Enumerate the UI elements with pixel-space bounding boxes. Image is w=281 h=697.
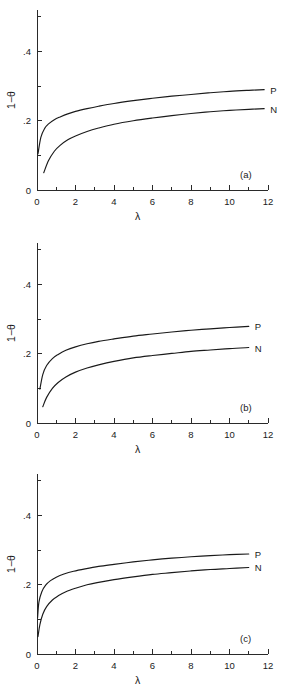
figure-container: 0246810120.2.4PN1−θλ(a)0246810120.2.4PN1…: [0, 0, 281, 697]
x-tick-label: 2: [73, 196, 78, 207]
x-tick-label: 0: [34, 660, 39, 671]
y-tick-label: 0: [26, 418, 31, 429]
y-tick-label: .2: [23, 348, 31, 359]
curve-label-p: P: [270, 85, 276, 96]
x-tick-label: 12: [263, 196, 274, 207]
curve-label-n: N: [255, 343, 262, 354]
x-tick-label: 6: [150, 196, 155, 207]
y-axis-title: 1−θ: [5, 555, 17, 573]
x-tick-label: 2: [73, 429, 78, 440]
curve-n: [38, 567, 249, 636]
x-tick-label: 12: [263, 429, 274, 440]
x-axis-title: λ: [135, 210, 141, 222]
panel-label: (c): [240, 633, 251, 644]
x-tick-label: 10: [224, 660, 235, 671]
x-tick-label: 4: [111, 660, 116, 671]
x-tick-label: 6: [150, 429, 155, 440]
y-axis-title: 1−θ: [5, 91, 17, 109]
curve-n: [44, 109, 264, 173]
x-axis-title: λ: [135, 674, 141, 686]
y-tick-label: .4: [23, 46, 31, 57]
plot-panel-b: 0246810120.2.4PN1−θλ(b): [0, 233, 281, 465]
panel-label: (b): [240, 402, 252, 413]
plot-svg: 0246810120.2.4PN1−θλ(a): [0, 0, 281, 232]
x-tick-label: 4: [111, 429, 116, 440]
y-axis-title: 1−θ: [5, 324, 17, 342]
x-tick-label: 0: [34, 429, 39, 440]
x-tick-label: 8: [188, 196, 193, 207]
y-tick-label: .2: [23, 115, 31, 126]
plot-panel-a: 0246810120.2.4PN1−θλ(a): [0, 0, 281, 232]
curve-label-p: P: [255, 549, 261, 560]
y-tick-label: 0: [26, 649, 31, 660]
plot-axes: [37, 10, 268, 190]
curve-label-p: P: [255, 321, 261, 332]
x-tick-label: 4: [111, 196, 116, 207]
plot-panel-c: 0246810120.2.4PN1−θλ(c): [0, 464, 281, 696]
plot-svg: 0246810120.2.4PN1−θλ(c): [0, 464, 281, 696]
curve-p: [40, 326, 249, 389]
curve-label-n: N: [270, 104, 277, 115]
y-tick-label: .4: [23, 510, 31, 521]
x-tick-label: 10: [224, 196, 235, 207]
x-tick-label: 8: [188, 660, 193, 671]
plot-axes: [37, 243, 268, 423]
y-tick-label: 0: [26, 185, 31, 196]
x-tick-label: 8: [188, 429, 193, 440]
y-tick-label: .2: [23, 579, 31, 590]
x-tick-label: 0: [34, 196, 39, 207]
plot-svg: 0246810120.2.4PN1−θλ(b): [0, 233, 281, 465]
x-axis-title: λ: [135, 443, 141, 455]
x-tick-label: 12: [263, 660, 274, 671]
plot-axes: [37, 474, 268, 654]
panel-label: (a): [240, 169, 252, 180]
x-tick-label: 6: [150, 660, 155, 671]
curve-n: [43, 348, 249, 407]
curve-p: [38, 90, 264, 154]
x-tick-label: 10: [224, 429, 235, 440]
curve-p: [38, 554, 249, 618]
x-tick-label: 2: [73, 660, 78, 671]
y-tick-label: .4: [23, 279, 31, 290]
curve-label-n: N: [255, 562, 262, 573]
